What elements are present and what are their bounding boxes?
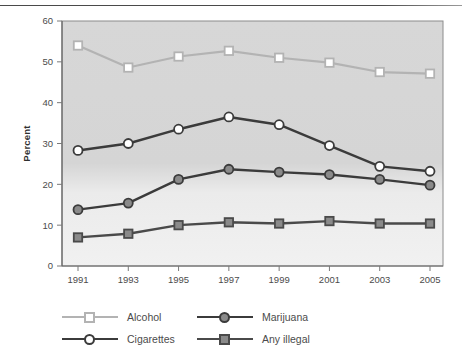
data-point-circle-marker: [74, 205, 83, 214]
y-axis-tick-label: 0: [48, 260, 53, 271]
data-point-square-marker: [275, 219, 283, 227]
x-axis-tick-label: 2003: [369, 274, 390, 285]
data-point-circle-marker: [224, 112, 233, 121]
plot-area-background: [62, 21, 443, 266]
legend-swatch-marijuana: [197, 309, 253, 325]
x-axis-tick-label: 1997: [218, 274, 239, 285]
y-axis-tick-label: 50: [42, 56, 53, 67]
legend-label-marijuana: Marijuana: [262, 311, 308, 323]
data-point-square-marker: [376, 219, 384, 227]
x-axis-tick-label: 1999: [269, 274, 290, 285]
x-axis-tick-label: 1993: [118, 274, 139, 285]
figure: 0102030405060199119931995199719992001200…: [0, 0, 465, 364]
legend-entry-alcohol[interactable]: Alcohol: [62, 306, 197, 328]
plot-container: 0102030405060199119931995199719992001200…: [0, 0, 465, 300]
y-axis-tick-label: 60: [42, 15, 53, 26]
legend-swatch-any-illegal: [197, 331, 253, 347]
x-axis-tick-label: 2005: [419, 274, 440, 285]
data-point-circle-marker: [275, 120, 284, 129]
square-marker-icon: [84, 312, 95, 323]
legend-label-alcohol: Alcohol: [127, 311, 161, 323]
legend-entry-cigarettes[interactable]: Cigarettes: [62, 328, 197, 350]
data-point-square-marker: [275, 54, 283, 62]
data-point-square-marker: [225, 218, 233, 226]
x-axis-title: Year: [242, 297, 263, 300]
legend-label-cigarettes: Cigarettes: [127, 333, 175, 345]
chart-legend: Alcohol Marijuana Cigarettes: [62, 306, 392, 358]
data-point-square-marker: [376, 68, 384, 76]
data-point-square-marker: [124, 63, 132, 71]
data-point-square-marker: [74, 41, 82, 49]
data-point-square-marker: [124, 230, 132, 238]
data-point-square-marker: [426, 219, 434, 227]
data-point-square-marker: [325, 58, 333, 66]
y-axis-tick-label: 40: [42, 97, 53, 108]
data-point-circle-marker: [375, 175, 384, 184]
data-point-circle-marker: [426, 167, 435, 176]
data-point-circle-marker: [124, 139, 133, 148]
data-point-square-marker: [426, 69, 434, 77]
y-axis-tick-label: 20: [42, 179, 53, 190]
legend-label-any-illegal: Any illegal: [262, 333, 310, 345]
line-chart: 0102030405060199119931995199719992001200…: [0, 0, 465, 300]
circle-marker-icon: [84, 334, 95, 345]
legend-row: Alcohol Marijuana: [62, 306, 392, 328]
data-point-square-marker: [174, 52, 182, 60]
x-axis-tick-label: 1991: [67, 274, 88, 285]
y-axis-tick-label: 10: [42, 220, 53, 231]
data-point-square-marker: [174, 221, 182, 229]
data-point-circle-marker: [174, 125, 183, 134]
y-axis-tick-label: 30: [42, 138, 53, 149]
data-point-circle-marker: [275, 168, 284, 177]
data-point-circle-marker: [174, 175, 183, 184]
legend-row: Cigarettes Any illegal: [62, 328, 392, 350]
data-point-circle-marker: [375, 162, 384, 171]
square-marker-icon: [219, 334, 230, 345]
legend-entry-marijuana[interactable]: Marijuana: [197, 306, 357, 328]
legend-swatch-alcohol: [62, 309, 118, 325]
data-point-square-marker: [74, 233, 82, 241]
data-point-square-marker: [325, 217, 333, 225]
x-axis-tick-label: 2001: [319, 274, 340, 285]
data-point-circle-marker: [124, 199, 133, 208]
legend-swatch-cigarettes: [62, 331, 118, 347]
legend-entry-any-illegal[interactable]: Any illegal: [197, 328, 357, 350]
data-point-circle-marker: [426, 181, 435, 190]
y-axis-title: Percent: [21, 125, 32, 162]
x-axis-tick-label: 1995: [168, 274, 189, 285]
data-point-circle-marker: [325, 141, 334, 150]
data-point-square-marker: [225, 47, 233, 55]
data-point-circle-marker: [74, 146, 83, 155]
data-point-circle-marker: [224, 165, 233, 174]
circle-marker-icon: [219, 312, 230, 323]
data-point-circle-marker: [325, 170, 334, 179]
